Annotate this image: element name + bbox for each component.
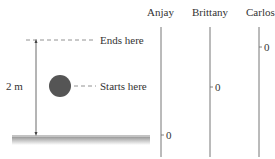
zero-label-carlos: 0	[264, 42, 270, 53]
axis-anjay	[161, 27, 164, 157]
axis-title-brittany: Brittany	[192, 7, 228, 18]
height-label: 2 m	[6, 81, 23, 92]
axis-carlos	[259, 27, 262, 157]
axis-title-carlos: Carlos	[246, 7, 275, 18]
ends-here-label: Ends here	[100, 35, 144, 46]
zero-label-brittany: 0	[215, 82, 221, 93]
ball	[49, 75, 71, 97]
height-arrow	[35, 39, 38, 136]
zero-label-anjay: 0	[166, 130, 172, 141]
ground	[12, 136, 150, 145]
axis-brittany	[210, 27, 213, 157]
starts-here-label: Starts here	[100, 81, 147, 92]
axis-title-anjay: Anjay	[147, 7, 174, 18]
